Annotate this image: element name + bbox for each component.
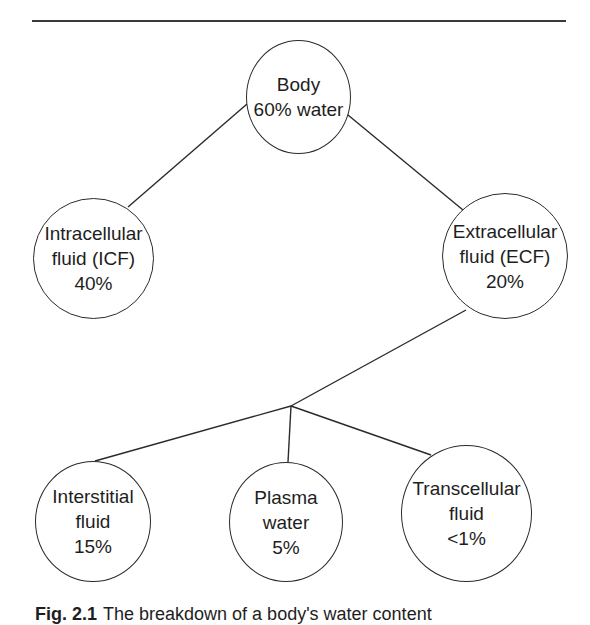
edge-body-icf	[128, 104, 247, 207]
edge-junction-interstitial	[95, 406, 291, 461]
edge-ecf-junction	[291, 310, 466, 406]
edge-body-ecf	[348, 115, 463, 210]
node-body-title: Body	[277, 72, 320, 97]
figure-number: Fig. 2.1	[35, 604, 97, 624]
node-interstitial-line1: Interstitial	[52, 484, 133, 509]
node-interstitial-line2: fluid	[76, 509, 111, 534]
node-ecf-line1: Extracellular	[453, 219, 558, 244]
node-plasma-line2: water	[263, 510, 309, 535]
node-transcellular-line1: Transcellular	[412, 476, 520, 501]
node-plasma-water: Plasma water 5%	[229, 462, 343, 582]
node-interstitial-fluid: Interstitial fluid 15%	[35, 461, 151, 582]
edge-junction-transcellular	[291, 406, 431, 455]
node-interstitial-percentage: 15%	[74, 534, 112, 559]
node-ecf-line2: fluid (ECF)	[460, 244, 551, 269]
figure-caption: Fig. 2.1The breakdown of a body's water …	[35, 603, 432, 625]
node-plasma-line1: Plasma	[254, 485, 317, 510]
node-transcellular-fluid: Transcellular fluid <1%	[401, 445, 532, 582]
edge-junction-plasma	[288, 406, 291, 462]
node-body: Body 60% water	[246, 40, 351, 154]
node-icf-percentage: 40%	[74, 271, 112, 296]
node-intracellular-fluid: Intracellular fluid (ICF) 40%	[33, 198, 154, 319]
node-plasma-percentage: 5%	[272, 535, 299, 560]
node-body-percentage: 60% water	[254, 97, 344, 122]
node-icf-line2: fluid (ICF)	[52, 246, 135, 271]
node-transcellular-line2: fluid	[449, 501, 484, 526]
node-ecf-percentage: 20%	[486, 269, 524, 294]
node-extracellular-fluid: Extracellular fluid (ECF) 20%	[442, 193, 568, 319]
node-icf-line1: Intracellular	[44, 221, 142, 246]
node-transcellular-percentage: <1%	[447, 526, 486, 551]
figure-caption-text: The breakdown of a body's water content	[103, 604, 432, 624]
